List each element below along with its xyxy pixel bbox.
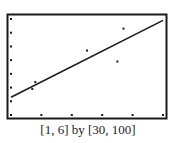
regression-line <box>11 20 163 97</box>
x-tick-dot <box>40 114 42 116</box>
y-tick-dot <box>10 45 12 47</box>
axis-tick-marks <box>10 18 164 116</box>
y-tick-dot <box>10 59 12 61</box>
data-point <box>116 61 118 63</box>
data-point <box>31 88 33 90</box>
y-tick-dot <box>10 73 12 75</box>
data-point <box>34 81 36 83</box>
y-tick-dot <box>10 18 12 20</box>
window-caption: [1, 6] by [30, 100] <box>0 122 176 138</box>
x-tick-dot <box>132 114 134 116</box>
x-tick-dot <box>101 114 103 116</box>
y-tick-dot <box>10 87 12 89</box>
data-point <box>86 50 88 52</box>
data-point <box>122 28 124 30</box>
x-tick-dot <box>162 114 164 116</box>
y-tick-dot <box>10 32 12 34</box>
x-tick-dot <box>71 114 73 116</box>
y-tick-dot <box>10 114 12 116</box>
fit-line <box>11 20 163 97</box>
y-tick-dot <box>10 100 12 102</box>
